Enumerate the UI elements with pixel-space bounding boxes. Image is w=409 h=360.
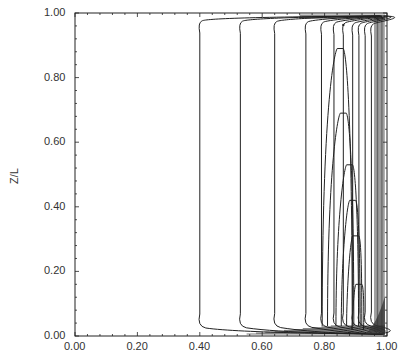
y-tick-label: 0.00 <box>44 329 65 341</box>
y-tick-label: 1.00 <box>44 6 65 18</box>
y-tick-label: 0.20 <box>44 264 65 276</box>
y-tick-label: 0.80 <box>44 71 65 83</box>
x-tick-label: 0.00 <box>64 340 85 352</box>
contour-lines <box>199 15 395 334</box>
x-tick-label: 1.00 <box>376 340 397 352</box>
contour-plot <box>0 0 409 360</box>
x-tick-label: 0.40 <box>189 340 210 352</box>
x-tick-label: 0.20 <box>126 340 147 352</box>
x-tick-label: 0.60 <box>251 340 272 352</box>
x-tick-label: 0.80 <box>314 340 335 352</box>
y-axis-label: Z/L <box>8 168 20 184</box>
plot-frame <box>75 13 387 336</box>
y-tick-label: 0.40 <box>44 200 65 212</box>
y-tick-label: 0.60 <box>44 135 65 147</box>
axis-ticks <box>75 13 387 336</box>
